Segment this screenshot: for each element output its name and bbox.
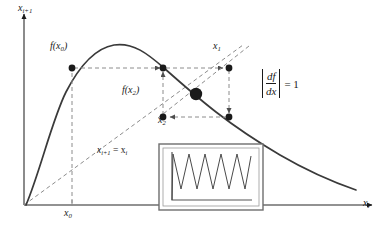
y-axis-label: xi+1 bbox=[18, 3, 32, 15]
marker-x1 bbox=[226, 65, 233, 72]
tangent-slope-one bbox=[158, 46, 249, 118]
label-identity-line: xi+1 = xi bbox=[97, 146, 127, 156]
label-f-x2: f(x2) bbox=[122, 85, 139, 97]
derivative-numerator: df bbox=[267, 70, 276, 83]
inset-panel bbox=[159, 144, 263, 210]
label-x0: x0 bbox=[64, 208, 72, 220]
derivative-fraction: df dx bbox=[263, 70, 279, 97]
x-axis-label: xi bbox=[363, 198, 369, 210]
derivative-denominator: dx bbox=[266, 85, 276, 98]
figure-canvas bbox=[0, 0, 389, 242]
derivative-equals: = 1 bbox=[280, 78, 298, 90]
marker-fixed-point bbox=[190, 88, 202, 100]
marker-f-x2 bbox=[160, 65, 167, 72]
marker-f-x0 bbox=[69, 65, 76, 72]
label-derivative-magnitude: df dx = 1 bbox=[262, 69, 299, 98]
marker-f-x1 bbox=[226, 114, 233, 121]
label-x1: x1 bbox=[213, 41, 221, 53]
label-f-x0: f(x0) bbox=[50, 41, 67, 53]
cobweb-figure: xi+1 xi f(x0) f(x2) x1 x2 x0 xi+1 = xi d… bbox=[0, 0, 389, 242]
label-x2: x2 bbox=[158, 115, 166, 127]
